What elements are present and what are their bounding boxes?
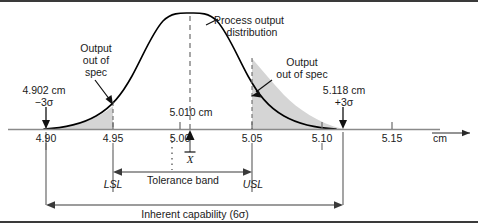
mean-value-label: 5.010 cm (169, 106, 212, 118)
inherent-capability-arrow-head-right (334, 201, 343, 208)
lower-spec-value-label: 4.902 cm (22, 84, 65, 96)
axis-arrow-head (462, 130, 470, 136)
axis-tick-label-515: 5.15 (382, 132, 402, 144)
process-capability-figure: Process output distribution Output out o… (0, 0, 478, 223)
axis-tick-label-505: 5.05 (242, 132, 262, 144)
out-of-spec-left-line3: spec (85, 66, 107, 78)
tolerance-band-label: Tolerance band (143, 174, 223, 186)
upper-spec-sigma-label: +3σ (335, 96, 353, 108)
axis-tick-label-495: 4.95 (103, 132, 123, 144)
plus-3sigma-arrow-head (339, 120, 347, 129)
lower-spec-sigma-label: −3σ (35, 96, 53, 108)
out-of-spec-left-shading (46, 106, 113, 129)
inherent-capability-arrow-head-left (46, 201, 55, 208)
axis-tick-label-490: 4.90 (36, 132, 56, 144)
lsl-label: LSL (104, 178, 123, 190)
axis-tick-label-510: 5.10 (312, 132, 332, 144)
out-of-spec-right-line2: out of spec (276, 68, 327, 80)
mean-xbar-symbol: X (187, 153, 194, 165)
distribution-label-line1: Process output (214, 14, 284, 26)
out-of-spec-right-line1: Output (286, 56, 318, 68)
out-of-spec-left-line1: Output (80, 42, 112, 54)
out-of-spec-left-line2: out of (83, 54, 109, 66)
axis-tick-stems (46, 143, 322, 150)
upper-spec-value-label: 5.118 cm (323, 84, 365, 96)
tolerance-band-arrow-head-left (113, 168, 122, 175)
axis-unit-label: cm (433, 132, 447, 144)
minus-3sigma-arrow-head (42, 120, 50, 129)
out-of-spec-left-leader-shaft (95, 80, 110, 100)
tolerance-band-arrow-head-right (243, 168, 252, 175)
axis-tick-label-500: 5.00 (170, 132, 190, 144)
usl-label: USL (243, 178, 263, 190)
distribution-label-line2: distribution (227, 26, 278, 38)
inherent-capability-label: Inherent capability (6σ) (141, 208, 248, 220)
